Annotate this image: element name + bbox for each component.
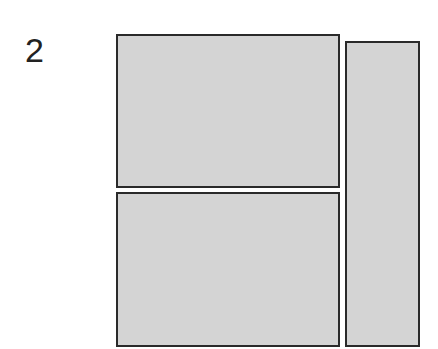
panel-bottom-left bbox=[116, 192, 340, 347]
panel-top-left bbox=[116, 34, 340, 188]
figure-number-label: 2 bbox=[25, 30, 44, 70]
panel-right bbox=[345, 41, 420, 347]
